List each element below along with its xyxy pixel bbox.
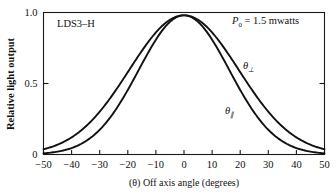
x-tick-label: −50 bbox=[35, 159, 51, 170]
y-axis-tick-labels: 00.51.0 bbox=[24, 7, 37, 160]
y-axis-title: Relative light output bbox=[5, 37, 16, 130]
x-axis-ticks bbox=[44, 150, 325, 155]
chart-plot: −50−40−30−20−1001020304050 00.51.0 LDS3–… bbox=[0, 0, 336, 193]
x-tick-label: 10 bbox=[207, 159, 218, 170]
x-axis-title: (θ) Off axis angle (degrees) bbox=[129, 177, 239, 189]
x-tick-label: 30 bbox=[263, 159, 274, 170]
curve-theta-parallel bbox=[44, 15, 325, 153]
y-tick-label: 0.5 bbox=[24, 78, 37, 89]
theta-perp-subscript: ⊥ bbox=[248, 66, 254, 74]
x-tick-label: 50 bbox=[319, 159, 330, 170]
x-tick-label: −30 bbox=[91, 159, 107, 170]
theta-par-subscript: ∥ bbox=[230, 111, 234, 119]
x-tick-label: −10 bbox=[148, 159, 164, 170]
y-tick-label: 1.0 bbox=[24, 7, 37, 18]
y-tick-label: 0 bbox=[32, 149, 37, 160]
x-tick-label: 20 bbox=[235, 159, 246, 170]
plot-frame bbox=[44, 13, 325, 155]
power-annotation-value: = 1.5 mwatts bbox=[242, 15, 299, 26]
curve-theta-perpendicular bbox=[44, 15, 325, 149]
x-tick-label: −40 bbox=[63, 159, 79, 170]
curve-label-theta-perpendicular: θ⊥ bbox=[243, 60, 254, 74]
figure-container: −50−40−30−20−1001020304050 00.51.0 LDS3–… bbox=[0, 0, 336, 193]
power-annotation: P0 = 1.5 mwatts bbox=[231, 15, 299, 29]
x-tick-label: −20 bbox=[120, 159, 136, 170]
x-tick-label: 0 bbox=[181, 159, 186, 170]
x-axis-tick-labels: −50−40−30−20−1001020304050 bbox=[35, 159, 329, 170]
x-tick-label: 40 bbox=[291, 159, 302, 170]
curve-label-theta-parallel: θ∥ bbox=[225, 105, 234, 119]
device-label: LDS3–H bbox=[57, 18, 95, 29]
